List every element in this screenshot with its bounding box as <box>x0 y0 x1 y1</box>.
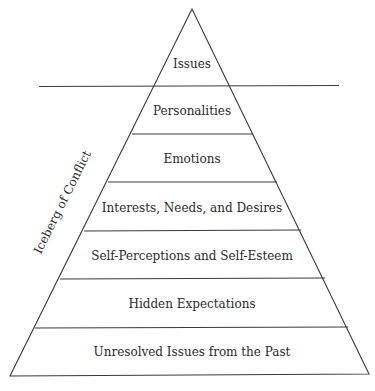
layer-label-emotions: Emotions <box>163 152 220 166</box>
divider-4 <box>60 278 325 279</box>
divider-5 <box>35 327 348 328</box>
layer-label-interests: Interests, Needs, and Desires <box>102 201 282 215</box>
iceberg-diagram: Issues Personalities Emotions Interests,… <box>0 0 375 391</box>
waterline <box>39 86 339 87</box>
layer-label-hidden-expectations: Hidden Expectations <box>128 297 255 311</box>
layer-label-personalities: Personalities <box>153 104 231 118</box>
divider-3 <box>84 230 301 231</box>
layer-label-unresolved-issues: Unresolved Issues from the Past <box>94 345 291 359</box>
side-title: Iceberg of Conflict <box>31 148 94 256</box>
layer-label-self-perceptions: Self-Perceptions and Self-Esteem <box>91 249 293 263</box>
layer-label-issues: Issues <box>173 57 211 71</box>
